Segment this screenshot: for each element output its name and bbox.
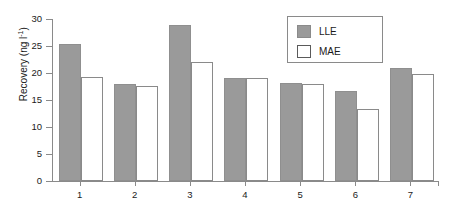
bar-mae-7 <box>412 74 434 181</box>
legend-label-lle: LLE <box>319 27 337 37</box>
legend-swatch-mae-icon <box>297 45 311 58</box>
y-tick-label: 5 <box>0 149 42 159</box>
bar-mae-4 <box>246 78 268 181</box>
x-tick-label: 1 <box>65 190 95 200</box>
bar-lle-5 <box>280 83 302 181</box>
bar-mae-1 <box>81 77 103 181</box>
bar-mae-3 <box>191 62 213 181</box>
x-tick-mark <box>300 181 301 186</box>
x-tick-mark <box>245 181 246 186</box>
x-axis-end-tick <box>438 181 439 186</box>
y-axis-title-text: Recovery (ng l <box>18 37 29 101</box>
bar-mae-6 <box>357 109 379 181</box>
bar-lle-1 <box>59 44 81 181</box>
legend-label-mae: MAE <box>319 47 341 57</box>
legend-item-mae: MAE <box>297 43 382 60</box>
bar-lle-2 <box>114 84 136 181</box>
chart-legend: LLE MAE <box>287 16 383 63</box>
y-tick-mark <box>46 181 52 182</box>
x-tick-label: 4 <box>230 190 260 200</box>
bar-lle-3 <box>169 25 191 181</box>
bar-lle-7 <box>390 68 412 181</box>
y-axis-title: Recovery (ng l-1) <box>17 0 29 139</box>
x-tick-label: 3 <box>175 190 205 200</box>
bar-lle-4 <box>224 78 246 181</box>
x-tick-mark <box>410 181 411 186</box>
x-tick-label: 2 <box>120 190 150 200</box>
y-axis-title-exponent: -1 <box>17 30 24 36</box>
chart-figure: 051015202530 1234567 Recovery (ng l-1) L… <box>0 0 456 214</box>
x-tick-label: 5 <box>285 190 315 200</box>
bar-lle-6 <box>335 91 357 181</box>
bar-mae-5 <box>302 84 324 181</box>
legend-swatch-lle-icon <box>297 25 311 38</box>
bar-mae-2 <box>136 86 158 181</box>
x-tick-label: 7 <box>395 190 425 200</box>
y-axis-title-tail: ) <box>18 27 29 30</box>
x-tick-mark <box>355 181 356 186</box>
x-tick-mark <box>80 181 81 186</box>
x-tick-label: 6 <box>340 190 370 200</box>
y-tick-label: 0 <box>0 176 42 186</box>
x-tick-mark <box>135 181 136 186</box>
legend-item-lle: LLE <box>297 23 382 40</box>
x-tick-mark <box>190 181 191 186</box>
